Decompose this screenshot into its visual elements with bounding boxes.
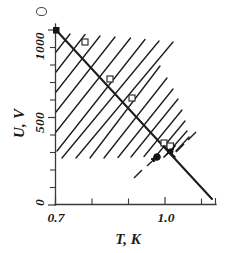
boundary-start-marker: [54, 28, 60, 34]
y-axis-title: U, V: [11, 107, 27, 138]
data-point-filled-cluster: [168, 149, 173, 154]
x-axis-ticks: [56, 197, 216, 205]
data-point-square: [129, 95, 135, 101]
y-axis-ticks: [48, 30, 56, 205]
y-tick-labels: 0 500 1000: [32, 32, 47, 206]
x-tick-label-0-7: 0.7: [48, 210, 66, 225]
y-tick-label-500: 500: [32, 112, 47, 133]
arrow-lower-left: [134, 156, 158, 178]
arrow-upper-right: [176, 132, 196, 152]
plot-canvas: 0 500 1000 U, V 0.7 1.0 T, K: [0, 0, 229, 253]
x-tick-label-1-0: 1.0: [158, 210, 175, 225]
boundary-line-group: [54, 28, 213, 200]
phase-boundary-line: [56, 30, 212, 199]
data-point-square: [161, 140, 167, 146]
x-tick-labels: 0.7 1.0: [48, 210, 175, 225]
figure-root: 0 500 1000 U, V 0.7 1.0 T, K: [0, 0, 229, 253]
y-tick-label-0: 0: [32, 199, 47, 206]
data-point-square: [82, 39, 88, 45]
data-point-square: [107, 76, 113, 82]
y-tick-label-1000: 1000: [32, 32, 47, 60]
x-axis-title: T, K: [115, 231, 141, 247]
